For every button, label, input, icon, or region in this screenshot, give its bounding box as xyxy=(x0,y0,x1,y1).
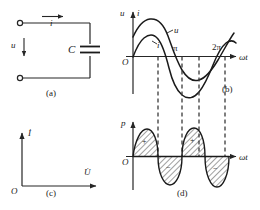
panel-a-caption: (a) xyxy=(46,88,56,98)
capacitor-label: C xyxy=(68,43,75,55)
waveform-x-axis-label: ωt xyxy=(239,52,248,62)
phasor-origin-label: O xyxy=(11,186,18,196)
circuit-diagram xyxy=(17,17,100,81)
circuit-voltage-label: u xyxy=(11,40,16,50)
waveform-tick-2pi: 2π xyxy=(212,42,221,52)
phasor-diagram xyxy=(22,133,96,186)
power-sign-positive-1: + xyxy=(142,137,147,146)
power-sign-negative-1: − xyxy=(166,163,171,172)
waveform-curve-label-i: i xyxy=(157,40,160,50)
phasor-current-label: İ xyxy=(28,128,31,138)
terminal-bottom xyxy=(17,75,22,80)
power-y-axis-label: p xyxy=(121,118,126,128)
u-label-leader xyxy=(167,30,173,33)
power-sign-negative-2: − xyxy=(213,164,218,173)
phasor-voltage-label: U̇ xyxy=(84,167,91,177)
power-x-axis-label: ωt xyxy=(239,152,248,162)
figure-canvas xyxy=(0,0,260,210)
circuit-current-label: i xyxy=(50,18,53,28)
waveform-u-axis-label: u xyxy=(120,8,125,18)
waveform-curve-label-u: u xyxy=(174,25,179,35)
panel-b-caption: (b) xyxy=(222,84,233,94)
waveform-i-axis-label: i xyxy=(137,8,140,18)
terminal-top xyxy=(17,20,22,25)
panel-c-caption: (c) xyxy=(46,188,56,198)
panel-d-caption: (d) xyxy=(177,188,188,198)
waveform-tick-pi: π xyxy=(173,43,178,53)
power-origin-label: O xyxy=(122,157,129,167)
waveform-origin-label: O xyxy=(122,57,129,67)
power-sign-positive-2: + xyxy=(190,136,195,145)
figure-root: u i C (a) u i O π 2π ωt u i (b) İ U̇ O (… xyxy=(0,0,260,210)
power-plot xyxy=(126,122,236,190)
